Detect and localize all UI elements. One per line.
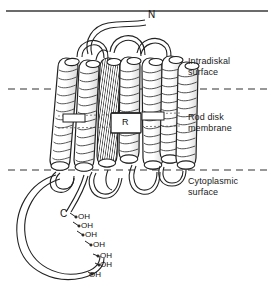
c-terminus-label: C <box>60 208 67 219</box>
hydroxyl-label: OH <box>78 212 90 221</box>
intradiskal-surface-label: Intradiskal surface <box>188 56 230 78</box>
diagram-canvas <box>0 0 275 294</box>
hydroxyl-label: OH <box>100 260 112 269</box>
rod-disk-membrane-label: Rod disk membrane <box>188 112 232 134</box>
helix-4 <box>119 57 141 163</box>
hydroxyl-label: OH <box>81 221 93 230</box>
hydroxyl-label: OH <box>85 230 97 239</box>
hydroxyl-label: OH <box>89 270 101 279</box>
rhodopsin-membrane-diagram: N C R Intradiskal surface Rod disk membr… <box>0 0 275 294</box>
retinal-label: R <box>122 117 129 127</box>
n-terminus-label: N <box>148 9 155 20</box>
cytoplasmic-surface-label: Cytoplasmic surface <box>188 176 238 198</box>
hydroxyl-label: OH <box>100 251 112 260</box>
hydroxyl-label: OH <box>93 240 105 249</box>
